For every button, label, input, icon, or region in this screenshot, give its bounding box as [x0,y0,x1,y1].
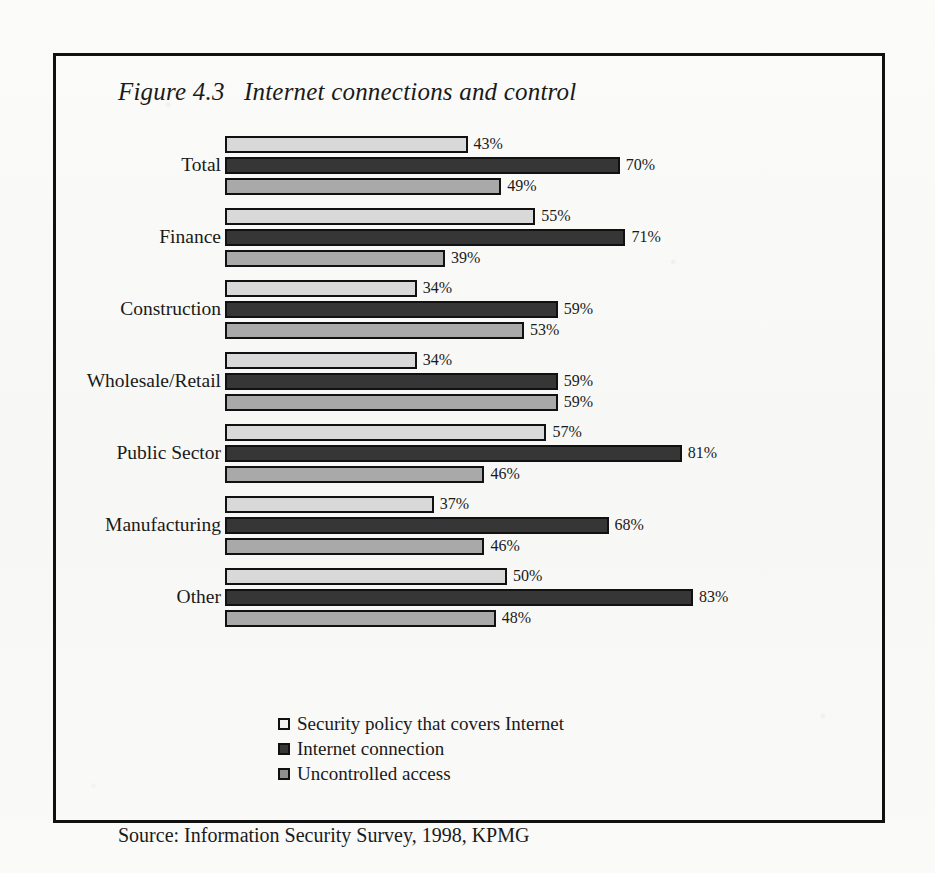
bar [225,424,546,441]
bar-value-label: 53% [530,320,559,340]
bar-value-label: 59% [564,299,593,319]
category-label: Total [0,155,221,175]
bar [225,538,484,555]
bar-value-label: 46% [490,464,519,484]
bar-value-label: 50% [513,566,542,586]
bar [225,250,445,267]
bar-value-label: 71% [631,227,660,247]
bar-value-label: 59% [564,371,593,391]
legend-swatch-icon [278,768,290,780]
bar-group: Construction34%59%53% [56,278,888,350]
bar [225,280,417,297]
legend-label: Security policy that covers Internet [297,713,564,735]
legend-swatch-icon [278,718,290,730]
legend-label: Internet connection [297,738,444,760]
legend-label: Uncontrolled access [297,763,451,785]
bar [225,394,558,411]
bar [225,229,625,246]
figure-frame: Figure 4.3 Internet connections and cont… [53,53,885,823]
bar [225,589,693,606]
bar-group: Total43%70%49% [56,134,888,206]
bar [225,496,434,513]
bar [225,373,558,390]
bar-value-label: 55% [541,206,570,226]
bar-value-label: 34% [423,278,452,298]
bar-value-label: 57% [552,422,581,442]
bar-group: Public Sector57%81%46% [56,422,888,494]
legend-item[interactable]: Security policy that covers Internet [278,711,564,736]
legend-swatch-icon [278,743,290,755]
bar-value-label: 46% [490,536,519,556]
bar [225,208,535,225]
bar-group: Manufacturing37%68%46% [56,494,888,566]
bar-value-label: 34% [423,350,452,370]
bar [225,466,484,483]
legend-item[interactable]: Internet connection [278,736,564,761]
bar-value-label: 39% [451,248,480,268]
legend-item[interactable]: Uncontrolled access [278,761,564,786]
bar-value-label: 68% [615,515,644,535]
category-label: Manufacturing [0,515,221,535]
bar-value-label: 37% [440,494,469,514]
bar [225,301,558,318]
bar [225,322,524,339]
bar-value-label: 43% [474,134,503,154]
bar [225,445,682,462]
category-label: Construction [0,299,221,319]
category-label: Other [0,587,221,607]
category-label: Public Sector [0,443,221,463]
figure-source: Source: Information Security Survey, 199… [118,824,529,847]
category-label: Finance [0,227,221,247]
bar-value-label: 48% [502,608,531,628]
bar-value-label: 81% [688,443,717,463]
bar [225,178,501,195]
bar-group: Wholesale/Retail34%59%59% [56,350,888,422]
bar-value-label: 59% [564,392,593,412]
bar [225,352,417,369]
bar-chart: Total43%70%49%Finance55%71%39%Constructi… [56,134,888,638]
bar-group: Other50%83%48% [56,566,888,638]
bar [225,157,620,174]
figure-title: Figure 4.3 Internet connections and cont… [118,78,576,106]
chart-legend: Security policy that covers InternetInte… [278,711,564,786]
bar-group: Finance55%71%39% [56,206,888,278]
bar-value-label: 83% [699,587,728,607]
category-label: Wholesale/Retail [0,371,221,391]
bar [225,136,468,153]
bar [225,610,496,627]
bar [225,568,507,585]
bar-value-label: 49% [507,176,536,196]
bar-value-label: 70% [626,155,655,175]
bar [225,517,609,534]
